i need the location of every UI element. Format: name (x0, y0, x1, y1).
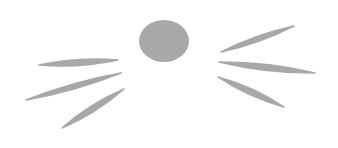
left-whisker-1 (39, 59, 118, 66)
left-whisker-3 (62, 89, 124, 128)
left-whisker-2 (26, 73, 121, 100)
right-whiskers (218, 26, 315, 107)
cat-whiskers-illustration (0, 0, 338, 148)
nose-shape (139, 20, 189, 62)
right-whisker-2 (219, 62, 315, 73)
left-whiskers (26, 59, 124, 128)
right-whisker-1 (221, 26, 294, 52)
right-whisker-3 (218, 77, 284, 107)
